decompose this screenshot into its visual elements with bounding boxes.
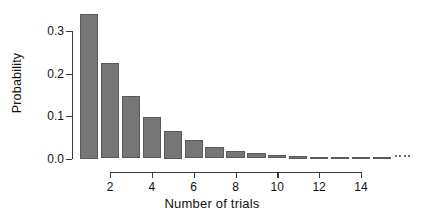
- bar: [143, 117, 161, 159]
- bar: [331, 157, 349, 159]
- x-tick-label: 4: [149, 180, 156, 194]
- bar: [352, 157, 370, 159]
- x-tick-label: 10: [271, 180, 284, 194]
- y-tick-mark: [66, 116, 72, 117]
- bar: [164, 131, 182, 159]
- bar: [268, 155, 286, 158]
- bar: [101, 63, 119, 158]
- y-tick-mark: [66, 74, 72, 75]
- y-tick-mark: [66, 159, 72, 160]
- ellipsis-dot: [399, 155, 401, 157]
- tail-ellipsis-dots: [395, 155, 411, 157]
- x-tick-label: 2: [107, 180, 114, 194]
- bar: [373, 157, 391, 159]
- x-tick-mark: [277, 172, 278, 178]
- x-axis-title: Number of trials: [0, 196, 424, 211]
- ellipsis-dot: [395, 155, 397, 157]
- y-tick-mark: [66, 31, 72, 32]
- bar: [80, 14, 98, 159]
- x-tick-label: 12: [312, 180, 325, 194]
- x-tick-mark: [319, 172, 320, 178]
- bar: [226, 151, 244, 159]
- x-tick-mark: [361, 172, 362, 178]
- x-tick-label: 14: [354, 180, 367, 194]
- bar: [205, 147, 223, 159]
- bar: [310, 157, 328, 159]
- bar: [289, 156, 307, 158]
- ellipsis-dot: [408, 155, 410, 157]
- x-tick-label: 6: [190, 180, 197, 194]
- bar: [122, 96, 140, 159]
- probability-bar-chart: Probability 0.00.10.20.3 Number of trial…: [0, 0, 424, 221]
- x-tick-mark: [194, 172, 195, 178]
- ellipsis-dot: [404, 155, 406, 157]
- x-tick-mark: [236, 172, 237, 178]
- x-tick-mark: [110, 172, 111, 178]
- x-tick-label: 8: [232, 180, 239, 194]
- bar: [247, 153, 265, 158]
- x-tick-mark: [152, 172, 153, 178]
- bar: [185, 140, 203, 158]
